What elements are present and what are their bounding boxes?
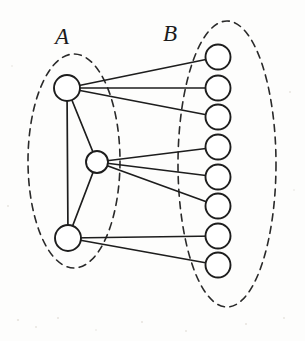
paper-speckle-layer — [7, 65, 295, 332]
edge-a1-a3 — [67, 88, 68, 238]
edge-a3-b7 — [68, 236, 218, 238]
graph-diagram: A B — [0, 0, 305, 341]
node-b1[interactable] — [206, 45, 231, 70]
group-ellipse-layer — [28, 21, 276, 307]
node-b2[interactable] — [206, 76, 231, 101]
node-b3[interactable] — [206, 105, 231, 130]
node-a1[interactable] — [54, 75, 80, 101]
node-layer — [54, 45, 231, 278]
node-b4[interactable] — [206, 135, 231, 160]
node-b7[interactable] — [206, 224, 231, 249]
edge-a2-b4 — [97, 147, 218, 162]
node-b6[interactable] — [206, 194, 231, 219]
node-a2[interactable] — [86, 151, 108, 173]
edge-a1-b3 — [67, 88, 218, 117]
set-label-b: B — [163, 21, 177, 46]
figure-container: A B — [0, 0, 305, 341]
edge-a1-b1 — [67, 57, 218, 88]
node-b8[interactable] — [206, 253, 231, 278]
edge-a2-b6 — [97, 162, 218, 206]
set-label-a: A — [53, 24, 70, 49]
label-layer: A B — [53, 21, 177, 49]
node-a3[interactable] — [55, 225, 81, 251]
node-b5[interactable] — [206, 165, 231, 190]
